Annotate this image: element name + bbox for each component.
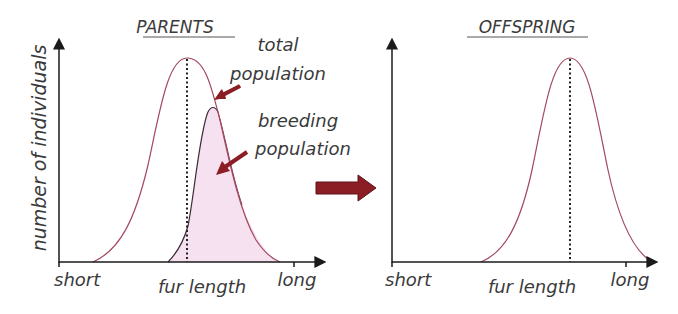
breeding-annotation-line1: breeding	[258, 110, 338, 131]
natural-selection-diagram: PARENTS number of individuals short fur …	[0, 0, 678, 314]
total-pointer-arrow	[214, 85, 241, 100]
total-annotation-line1: total	[257, 34, 298, 55]
offspring-x-axis-label: fur length	[488, 276, 576, 297]
offspring-title: OFFSPRING	[479, 17, 576, 37]
parents-panel: PARENTS number of individuals short fur …	[28, 17, 351, 297]
offspring-long-label: long	[611, 269, 650, 290]
total-annotation-line2: population	[229, 63, 326, 84]
offspring-population-curve	[481, 58, 652, 262]
offspring-short-label: short	[385, 269, 432, 290]
transition-arrow-icon	[316, 175, 376, 201]
offspring-panel: OFFSPRING short fur length long	[385, 17, 656, 297]
parents-short-label: short	[54, 269, 101, 290]
parents-title: PARENTS	[136, 17, 214, 37]
y-axis-label: number of individuals	[28, 45, 50, 252]
parents-long-label: long	[278, 269, 317, 290]
parents-x-axis-label: fur length	[158, 276, 246, 297]
breeding-annotation-line2: population	[254, 138, 351, 159]
